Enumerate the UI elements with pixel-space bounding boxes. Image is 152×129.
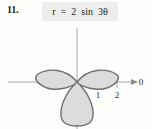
polar-equation-text: r = 2 sin 3θ [52,6,107,18]
polar-axis-label: 0 [139,77,144,87]
equation-box: r = 2 sin 3θ [42,2,118,21]
petal-upper-left [36,70,77,89]
petal-bottom [61,82,93,126]
polar-rose-chart: 1 2 0 [0,22,152,129]
petal-lower-center [77,70,118,89]
problem-number: 11. [7,4,18,15]
x-tick-label-2: 2 [115,90,120,100]
figure-container: 11. r = 2 sin 3θ 1 2 0 [0,0,152,129]
x-tick-label-1: 1 [96,90,101,100]
polar-plot: 1 2 0 [0,22,152,129]
x-axis-arrowhead [131,79,138,85]
